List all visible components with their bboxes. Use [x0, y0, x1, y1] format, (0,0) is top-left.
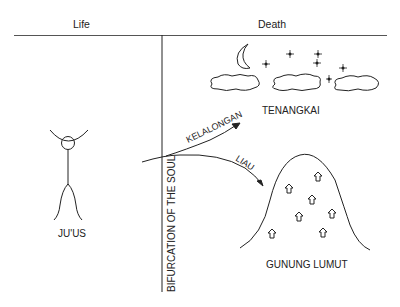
gunung-lumut-label: GUNUNG LUMUT [266, 259, 348, 270]
liau-arrowhead-icon [257, 180, 263, 186]
cloud-icon [273, 74, 321, 91]
tenangkai-label: TENANGKAI [262, 105, 320, 116]
cloud-icon [335, 76, 379, 91]
liau-label: LIAU [234, 153, 256, 172]
kelalongan-arrowhead-icon [232, 123, 240, 129]
house-icons [268, 172, 336, 238]
cloud-icon [211, 75, 259, 91]
divider-label: BIFURCATION OF THE SOUL [166, 155, 177, 292]
crescent-moon-icon [237, 44, 250, 69]
death-header: Death [258, 18, 286, 30]
mountain-gunung-lumut [240, 154, 370, 250]
stick-figure-icon [50, 130, 88, 220]
life-header: Life [73, 18, 90, 30]
figure-label: JU'US [58, 228, 86, 239]
stars-icon [265, 53, 345, 81]
